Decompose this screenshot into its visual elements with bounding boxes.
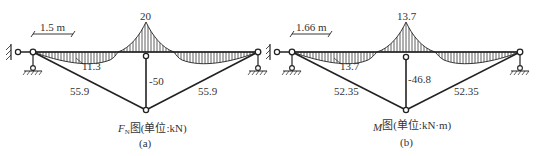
dimension-label: 1.66 m: [296, 21, 327, 33]
panel-a: 1.5 m 20 11.3 -50 55.9 55.9 FN图(单位:kN) (…: [6, 10, 267, 150]
right-strut-value: 55.9: [198, 85, 218, 97]
sag-value: 13.7: [340, 60, 360, 72]
dimension-label: 1.5 m: [40, 21, 66, 33]
panel-b: 1.66 m 13.7 13.7 -46.8 52.35 52.35 M图(单位…: [266, 10, 529, 149]
peak-region: [377, 22, 435, 52]
post-value: -50: [149, 75, 164, 87]
caption: M图(单位:kN·m): [372, 118, 452, 133]
node-left-icon: [289, 49, 295, 55]
right-strut-value: 52.35: [454, 85, 479, 97]
left-strut-value: 55.9: [70, 85, 90, 97]
fixed-wall-icon: [6, 44, 21, 60]
diagram-canvas: 1.5 m 20 11.3 -50 55.9 55.9 FN图(单位:kN) (…: [0, 0, 538, 156]
fixed-wall-icon: [266, 44, 280, 60]
peak-value: 13.7: [397, 10, 417, 22]
peak-region: [118, 22, 174, 52]
node-middle-icon: [143, 53, 148, 58]
peak-value: 20: [140, 10, 152, 22]
sag-value: 11.3: [82, 60, 101, 72]
sub-label: (a): [139, 137, 152, 150]
node-left-icon: [30, 49, 36, 55]
node-right-icon: [517, 49, 523, 55]
node-middle-icon: [403, 54, 408, 59]
post-value: -46.8: [408, 73, 431, 85]
sub-label: (b): [400, 136, 413, 149]
node-right-icon: [255, 49, 261, 55]
left-strut-value: 52.35: [334, 85, 359, 97]
node-bottom-icon: [403, 107, 408, 112]
caption: FN图(单位:kN): [117, 121, 187, 136]
node-bottom-icon: [143, 107, 148, 112]
